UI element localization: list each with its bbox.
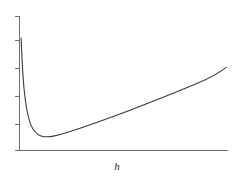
figure-container: h (0, 0, 232, 177)
error-vs-stepsize-plot: h (0, 0, 232, 177)
x-axis-label: h (114, 160, 120, 172)
